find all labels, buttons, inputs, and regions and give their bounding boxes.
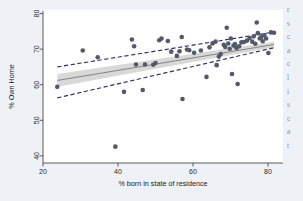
text-fragment: s <box>287 98 303 112</box>
data-point <box>264 36 269 41</box>
data-point <box>95 55 100 60</box>
data-point <box>80 48 85 53</box>
x-tick-label: 80 <box>264 168 272 175</box>
data-point <box>153 61 158 66</box>
data-point <box>166 39 171 44</box>
data-point <box>177 49 182 54</box>
y-axis-title: % Own Home <box>7 64 16 108</box>
data-point <box>159 36 164 41</box>
data-point <box>230 72 235 77</box>
text-fragment: s <box>287 17 303 31</box>
text-fragment: r <box>287 3 303 17</box>
data-point <box>214 63 219 68</box>
figure-container: 405060708020406080% born in state of res… <box>0 0 303 201</box>
data-point <box>235 82 240 87</box>
text-fragment: a <box>287 125 303 139</box>
data-point <box>272 30 277 35</box>
text-fragment: c <box>287 112 303 126</box>
data-point <box>256 31 261 36</box>
data-point <box>169 49 174 54</box>
data-point <box>213 39 218 44</box>
data-point <box>122 90 127 95</box>
x-axis-title: % born in state of residence <box>118 179 207 188</box>
data-point <box>140 88 145 93</box>
data-point <box>253 42 258 47</box>
text-fragment: i <box>287 85 303 99</box>
data-point <box>254 20 259 25</box>
data-point <box>192 50 197 55</box>
data-point <box>180 97 185 102</box>
data-point <box>175 54 180 59</box>
data-point <box>132 44 137 49</box>
data-point <box>187 48 192 53</box>
y-tick-label: 50 <box>34 116 41 124</box>
data-point <box>229 36 234 41</box>
text-fragment: c <box>287 57 303 71</box>
data-point <box>130 37 135 42</box>
data-point <box>218 52 223 57</box>
data-point <box>199 48 204 53</box>
x-tick-label: 40 <box>114 168 122 175</box>
confidence-band <box>57 42 274 87</box>
data-point <box>134 62 139 67</box>
data-point <box>266 51 271 56</box>
data-point <box>207 45 212 50</box>
y-tick-label: 70 <box>34 45 41 53</box>
adjacent-text-column: rscacliscat <box>287 0 303 201</box>
x-tick-label: 20 <box>39 168 47 175</box>
text-fragment: l <box>287 71 303 85</box>
data-point <box>113 144 118 149</box>
text-fragment: t <box>287 139 303 153</box>
data-point <box>237 44 242 49</box>
y-tick-label: 40 <box>34 152 41 160</box>
data-point <box>233 42 238 47</box>
y-tick-label: 80 <box>34 10 41 18</box>
data-point <box>55 85 60 90</box>
data-point <box>204 75 209 80</box>
x-tick-label: 60 <box>189 168 197 175</box>
scatter-chart: 405060708020406080% born in state of res… <box>0 0 303 201</box>
y-tick-label: 60 <box>34 81 41 89</box>
data-point <box>224 25 229 30</box>
data-point <box>251 34 256 39</box>
text-fragment: a <box>287 44 303 58</box>
data-point <box>143 62 148 67</box>
data-point <box>226 41 231 46</box>
data-point <box>179 35 184 40</box>
data-point <box>227 46 232 51</box>
text-fragment: c <box>287 30 303 44</box>
data-point <box>223 45 228 50</box>
